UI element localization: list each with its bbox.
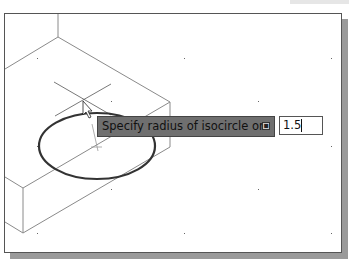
prompt-text: Specify radius of isocircle or [102,119,264,133]
down-arrow-options-icon[interactable]: ▪ [262,122,270,130]
grid-dots [37,58,332,234]
radius-input[interactable]: 1.5 [279,116,323,135]
radius-value: 1.5 [283,118,301,132]
text-caret [301,119,302,132]
dynamic-input-prompt: Specify radius of isocircle or ▪ [97,116,275,137]
window-edge [290,0,349,4]
